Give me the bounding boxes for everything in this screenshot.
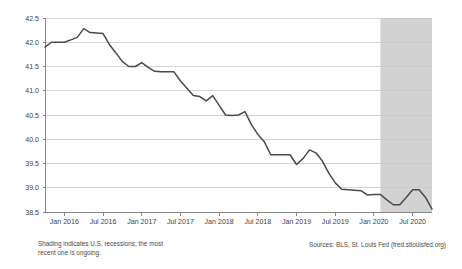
x-axis-tick-label: Jan 2018 bbox=[205, 218, 234, 226]
x-axis-tickmarks bbox=[64, 212, 412, 216]
sources-note: Sources: BLS, St. Louis Fed (fred.stloui… bbox=[309, 240, 446, 249]
y-axis-tick-label: 42.0 bbox=[25, 39, 39, 47]
y-axis-tick-label: 41.5 bbox=[25, 63, 39, 71]
x-axis-tick-label: Jan 2017 bbox=[127, 218, 156, 226]
x-axis-tick-label: Jul 2020 bbox=[399, 218, 426, 226]
data-series-group bbox=[45, 29, 432, 209]
x-axis-tick-label: Jan 2020 bbox=[359, 218, 388, 226]
x-axis-tick-label: Jan 2016 bbox=[50, 218, 79, 226]
y-axis-tick-label: 41.0 bbox=[25, 87, 39, 95]
y-axis-tick-label: 38.5 bbox=[25, 209, 39, 217]
x-axis-tick-label: Jul 2017 bbox=[167, 218, 194, 226]
y-axis-tick-label: 40.0 bbox=[25, 136, 39, 144]
x-axis-tick-label: Jul 2018 bbox=[244, 218, 271, 226]
line-chart-plot: 42.542.041.541.040.540.039.539.038.5 Jan… bbox=[0, 0, 462, 232]
y-axis-tick-label: 39.5 bbox=[25, 160, 39, 168]
y-axis-tick-label: 40.5 bbox=[25, 112, 39, 120]
chart-figure: 42.542.041.541.040.540.039.539.038.5 Jan… bbox=[0, 0, 462, 269]
x-axis-tick-labels: Jan 2016Jul 2016Jan 2017Jul 2017Jan 2018… bbox=[50, 218, 426, 226]
y-axis-tick-labels: 42.542.041.541.040.540.039.539.038.5 bbox=[25, 15, 39, 217]
data-series-line bbox=[45, 29, 432, 209]
shading-note: Shading indicates U.S. recessions; the m… bbox=[38, 239, 248, 258]
y-axis-tick-label: 39.0 bbox=[25, 184, 39, 192]
x-axis-tick-label: Jul 2016 bbox=[90, 218, 117, 226]
y-axis-tick-label: 42.5 bbox=[25, 15, 39, 23]
gridline-group bbox=[45, 18, 432, 188]
x-axis-tick-label: Jan 2019 bbox=[282, 218, 311, 226]
x-axis-tick-label: Jul 2019 bbox=[322, 218, 349, 226]
